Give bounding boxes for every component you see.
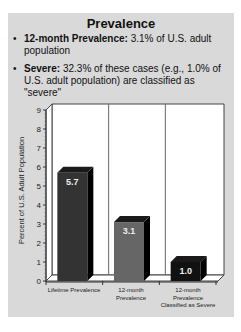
- y-tick-label: 6: [37, 163, 42, 172]
- bar-top: [57, 167, 93, 173]
- bar-top: [171, 256, 207, 262]
- y-tick-label: 3: [37, 220, 42, 229]
- y-tick-label: 8: [37, 125, 42, 134]
- bar-value-label: 5.7: [66, 177, 79, 187]
- x-category-label: 12-month Prevalence Classified as Severe: [160, 287, 216, 310]
- bar-side: [87, 167, 93, 281]
- y-tick-label: 7: [37, 144, 42, 153]
- y-tick-label: 0: [37, 277, 42, 286]
- x-category-label: 12-month Prevalence: [103, 287, 159, 302]
- x-category-label: Lifetime Prevalence: [46, 287, 102, 295]
- bar-value-label: 3.1: [123, 226, 136, 236]
- bar: [57, 173, 87, 281]
- chart-canvas: 01234567895.73.11.0: [0, 0, 241, 332]
- y-tick-label: 5: [37, 182, 42, 191]
- y-tick-label: 4: [37, 201, 42, 210]
- y-axis-label: Percent of U.S. Adult Population: [17, 126, 26, 256]
- bar-value-label: 1.0: [179, 266, 192, 276]
- bar-side: [144, 216, 150, 281]
- bar-top: [114, 216, 150, 222]
- chart-side-wall: [46, 104, 52, 281]
- y-tick-label: 9: [37, 106, 42, 115]
- y-tick-label: 2: [37, 239, 42, 248]
- y-tick-label: 1: [37, 258, 42, 267]
